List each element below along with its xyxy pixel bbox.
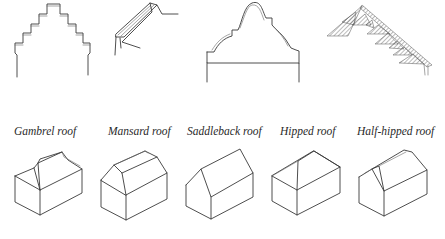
label-mansard-roof: Mansard roof <box>108 125 171 137</box>
eaves-detail-drawing <box>115 3 178 55</box>
gambrel-house-drawing <box>15 152 82 215</box>
label-gambrel-roof: Gambrel roof <box>14 125 76 137</box>
label-saddleback-roof: Saddleback roof <box>187 125 262 137</box>
curved-gable-drawing <box>207 2 299 82</box>
label-hipped-roof: Hipped roof <box>280 125 335 137</box>
stepped-gable-drawing <box>15 4 90 77</box>
half-hipped-house-drawing <box>359 150 427 216</box>
saddleback-house-drawing <box>186 149 253 219</box>
mansard-house-drawing <box>101 151 167 220</box>
roof-types-figure: Gambrel roof Mansard roof Saddleback roo… <box>0 0 445 239</box>
hipped-house-drawing <box>272 151 340 215</box>
figure-drawing <box>0 0 445 239</box>
label-half-hipped-roof: Half-hipped roof <box>357 125 434 137</box>
hatched-gable-drawing <box>327 5 432 75</box>
